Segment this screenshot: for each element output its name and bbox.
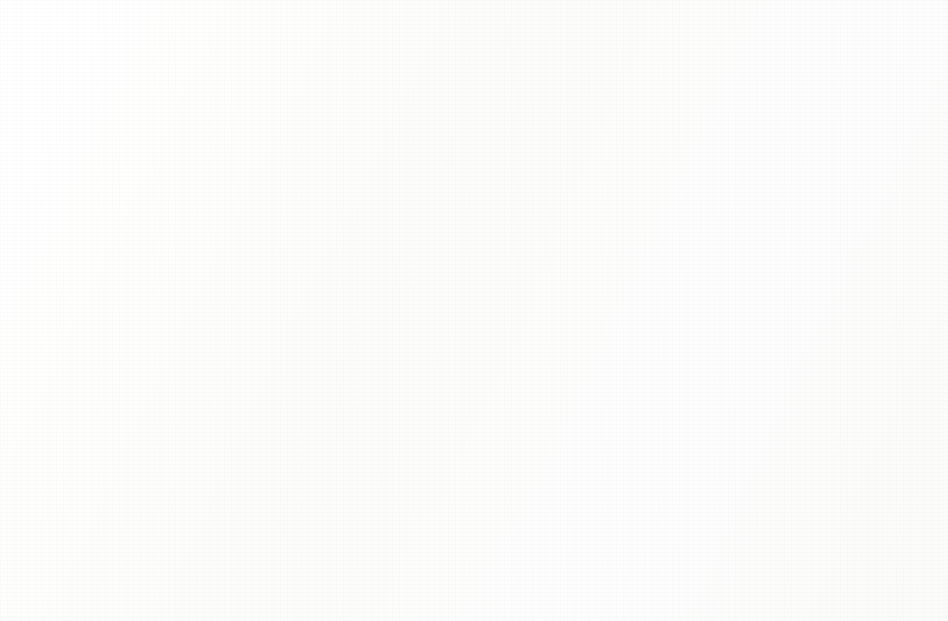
chart-panel-b: 6000012000018000024000030000036000042000… bbox=[0, 300, 948, 600]
svg-text:300000: 300000 bbox=[71, 398, 101, 408]
svg-text:240000: 240000 bbox=[71, 159, 101, 169]
svg-text:60000: 60000 bbox=[76, 514, 101, 524]
svg-text:480000: 480000 bbox=[71, 60, 101, 70]
y-axis-label-a: Bytes/1s bbox=[44, 155, 55, 193]
caption-b: (b) 0-6 Throughput of scenario 2 bbox=[0, 588, 948, 599]
svg-text:0: 0 bbox=[105, 556, 110, 562]
svg-text:20: 20 bbox=[370, 556, 380, 562]
svg-text:60: 60 bbox=[903, 556, 913, 562]
svg-text:360000: 360000 bbox=[71, 369, 101, 379]
line-chart-b: 6000012000018000024000030000036000042000… bbox=[0, 300, 948, 562]
svg-text:10: 10 bbox=[236, 556, 246, 562]
svg-text:80000: 80000 bbox=[76, 225, 101, 235]
svg-text:320000: 320000 bbox=[71, 126, 101, 136]
y-axis-label-b: Bytes/1s bbox=[44, 452, 55, 490]
svg-text:240000: 240000 bbox=[71, 427, 101, 437]
line-chart-a: 8000016000024000032000040000048000001020… bbox=[0, 8, 948, 270]
plot-area-a: 8000016000024000032000040000048000001020… bbox=[0, 8, 948, 270]
x-axis-label-a: Time(s) bbox=[470, 280, 502, 291]
x-axis-label-b: Time(s) bbox=[470, 572, 502, 583]
svg-text:50: 50 bbox=[770, 556, 780, 562]
svg-text:120000: 120000 bbox=[71, 485, 101, 495]
chart-panel-a: 8000016000024000032000040000048000001020… bbox=[0, 8, 948, 308]
svg-text:400000: 400000 bbox=[71, 93, 101, 103]
svg-text:40: 40 bbox=[636, 556, 646, 562]
svg-text:180000: 180000 bbox=[71, 456, 101, 466]
svg-text:160000: 160000 bbox=[71, 192, 101, 202]
svg-text:420000: 420000 bbox=[71, 340, 101, 350]
plot-area-b: 6000012000018000024000030000036000042000… bbox=[0, 300, 948, 562]
svg-text:30: 30 bbox=[503, 556, 513, 562]
